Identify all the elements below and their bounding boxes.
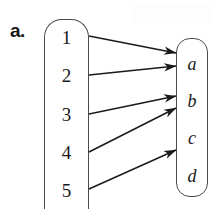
mapping-diagram-figure: a. 1 2 3 4 5 a b c d [0, 0, 217, 209]
arrow-1-to-a [89, 36, 176, 53]
arrow-layer [0, 0, 217, 209]
arrow-5-to-c [89, 150, 176, 189]
arrow-2-to-a [89, 66, 176, 75]
arrow-4-to-b [89, 108, 176, 152]
arrow-3-to-b [89, 96, 176, 114]
